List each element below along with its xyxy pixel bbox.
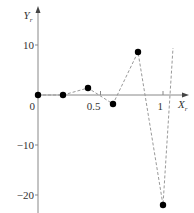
data-point-marker: [35, 92, 41, 98]
y-axis-arrow-icon: [36, 6, 41, 13]
x-axis-label: Xr: [177, 98, 188, 113]
x-tick-label: 1: [158, 100, 164, 112]
data-point-marker: [60, 92, 66, 98]
data-point-marker: [160, 202, 166, 208]
data-point-marker: [110, 101, 116, 107]
x-axis-arrow-icon: [182, 93, 189, 98]
y-tick-label: −10: [17, 139, 35, 151]
dashed-series-line: [38, 48, 173, 205]
data-point-marker: [135, 49, 141, 55]
chart-canvas: 00.5110−10−20YrXr: [0, 0, 194, 213]
data-point-marker: [85, 85, 91, 91]
x-tick-label: 0.5: [87, 100, 101, 112]
y-axis-label: Yr: [24, 9, 33, 24]
x-tick-label: 0: [30, 100, 36, 112]
y-tick-label: −20: [17, 189, 35, 201]
y-tick-label: 10: [23, 39, 35, 51]
